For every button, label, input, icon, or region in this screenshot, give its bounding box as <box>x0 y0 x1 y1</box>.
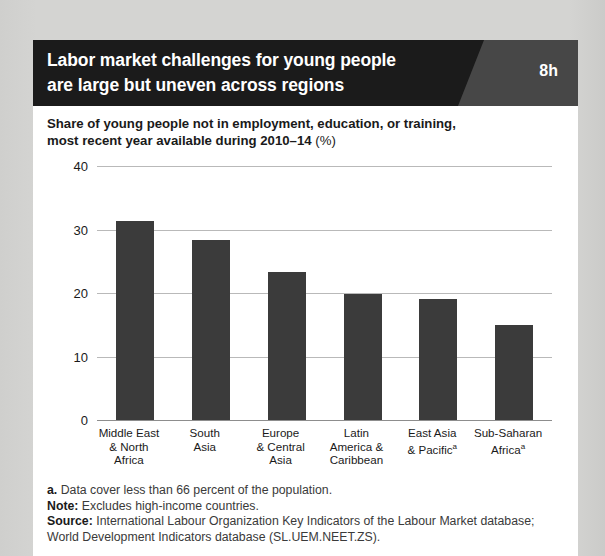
y-axis-tick-20: 20 <box>74 286 88 301</box>
plot-area: 010203040 <box>97 166 552 420</box>
x-axis-label-line: Latin <box>312 426 400 440</box>
x-axis-label: SouthAsia <box>161 426 249 453</box>
bar-series <box>97 166 552 420</box>
source-line: Source: International Labour Organizatio… <box>47 514 566 545</box>
y-axis-tick-10: 10 <box>74 349 88 364</box>
x-axis-label-line: Asia <box>161 440 249 454</box>
gridline-0: 0 <box>97 420 552 421</box>
x-axis-label-line: & North <box>85 440 173 454</box>
bar-slot <box>325 166 401 420</box>
x-axis-label-superscript: a <box>453 442 457 451</box>
bar <box>495 325 533 420</box>
source-text: International Labour Organization Key In… <box>47 514 534 544</box>
x-axis-label: LatinAmerica &Caribbean <box>312 426 400 467</box>
figure-title: Labor market challenges for young people… <box>47 48 467 98</box>
x-axis-label-line: Sub-Saharan <box>464 426 552 440</box>
figure-title-line-2: are large but uneven across regions <box>47 73 467 98</box>
bar-chart: 010203040 Middle East& NorthAfricaSouthA… <box>33 154 578 454</box>
footnote-a: a. Data cover less than 66 percent of th… <box>47 483 566 499</box>
x-axis-label-line: Caribbean <box>312 453 400 467</box>
bar <box>344 294 382 420</box>
bar-slot <box>97 166 173 420</box>
x-axis-label-superscript: a <box>521 442 525 451</box>
x-axis-label-line: Africa <box>85 453 173 467</box>
figure-subtitle: Share of young people not in employment,… <box>47 115 564 149</box>
x-axis-label-line: America & <box>312 440 400 454</box>
x-axis-label-line: & Central <box>237 440 325 454</box>
figure-notes: a. Data cover less than 66 percent of th… <box>47 483 566 545</box>
y-axis-tick-30: 30 <box>74 222 88 237</box>
x-axis-labels: Middle East& NorthAfricaSouthAsiaEurope&… <box>97 426 552 476</box>
x-axis-label-line: Middle East <box>85 426 173 440</box>
bar-slot <box>249 166 325 420</box>
source-label: Source: <box>47 514 93 528</box>
bar <box>116 221 154 420</box>
x-axis-label: East Asia& Pacifica <box>388 426 476 456</box>
subtitle-line-2: most recent year available during 2010–1… <box>47 132 564 149</box>
x-axis-label-line: Africaa <box>464 440 552 456</box>
footnote-a-text: Data cover less than 66 percent of the p… <box>57 483 332 497</box>
note-text: Excludes high-income countries. <box>78 499 258 513</box>
note-label: Note: <box>47 499 78 513</box>
note-line: Note: Excludes high-income countries. <box>47 499 566 515</box>
y-axis-tick-40: 40 <box>74 159 88 174</box>
figure-header: Labor market challenges for young people… <box>33 40 578 106</box>
bar <box>268 272 306 420</box>
bar <box>192 240 230 420</box>
x-axis-label: Europe& CentralAsia <box>237 426 325 467</box>
figure-title-line-1: Labor market challenges for young people <box>47 48 467 73</box>
figure-card: Labor market challenges for young people… <box>33 40 578 556</box>
x-axis-label-line: Europe <box>237 426 325 440</box>
x-axis-label: Middle East& NorthAfrica <box>85 426 173 467</box>
x-axis-label-line: South <box>161 426 249 440</box>
x-axis-label-line: Asia <box>237 453 325 467</box>
bar-slot <box>400 166 476 420</box>
bar-slot <box>173 166 249 420</box>
bar <box>419 299 457 420</box>
header-accent-panel <box>458 40 578 106</box>
subtitle-line-2-bold: most recent year available during 2010–1… <box>47 133 315 148</box>
x-axis-label-line: & Pacifica <box>388 440 476 456</box>
subtitle-line-1: Share of young people not in employment,… <box>47 115 564 132</box>
x-axis-label-line: East Asia <box>388 426 476 440</box>
figure-number-badge: 8h <box>539 62 558 80</box>
bar-slot <box>476 166 552 420</box>
subtitle-unit: (%) <box>315 133 336 148</box>
footnote-a-label: a. <box>47 483 57 497</box>
x-axis-label: Sub-SaharanAfricaa <box>464 426 552 456</box>
